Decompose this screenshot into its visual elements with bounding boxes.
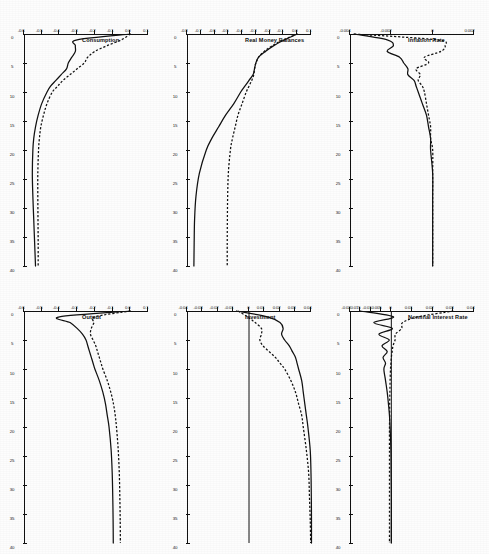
plot-area: 05101520253035400.040.030.020.010-0.005-… — [350, 311, 474, 543]
x-tick — [349, 150, 353, 151]
panel-consumption: Consumption 05101520253035400.10.0-0.1-0… — [0, 0, 163, 277]
x-tick — [186, 179, 190, 180]
x-tick-label: 10 — [335, 371, 339, 376]
x-tick — [349, 456, 353, 457]
x-tick — [349, 514, 353, 515]
x-tick-label: 40 — [335, 268, 339, 273]
x-tick-label: 25 — [335, 181, 339, 186]
series-canvas — [187, 311, 311, 543]
x-tick — [349, 179, 353, 180]
plot-area: 05101520253035400.10.0-0.1-0.2-0.3-0.4-0… — [24, 34, 148, 266]
x-tick — [186, 369, 190, 370]
x-tick-label: 10 — [172, 371, 176, 376]
x-tick-label: 5 — [173, 341, 175, 346]
x-tick-label: 5 — [173, 64, 175, 69]
x-tick-label: 40 — [335, 545, 339, 550]
x-tick-label: 10 — [172, 94, 176, 99]
series-solid-line — [56, 311, 130, 543]
x-tick — [349, 266, 353, 267]
series-canvas — [350, 311, 474, 543]
x-tick — [349, 427, 353, 428]
series-solid-line — [236, 311, 311, 543]
series-dashed-line — [37, 34, 130, 266]
x-tick — [186, 121, 190, 122]
x-tick-label: 40 — [172, 545, 176, 550]
x-tick-label: 0 — [10, 312, 12, 317]
x-tick-label: 30 — [9, 210, 13, 215]
y-tick-label: 0.002 — [452, 27, 474, 32]
x-tick — [23, 340, 27, 341]
x-tick-label: 40 — [9, 268, 13, 273]
y-tick-label: -0.6 — [2, 27, 24, 32]
y-tick-label: -0.04 — [165, 304, 187, 309]
panel-nominal-interest-rate: Nominal Interest Rate 05101520253035400.… — [326, 277, 489, 554]
x-tick — [349, 237, 353, 238]
y-tick-label: 0 — [411, 27, 433, 32]
x-tick-label: 15 — [172, 400, 176, 405]
x-tick-label: 25 — [9, 458, 13, 463]
x-tick-label: 35 — [335, 516, 339, 521]
series-canvas — [187, 34, 311, 266]
x-tick-label: 15 — [9, 123, 13, 128]
x-tick — [186, 237, 190, 238]
y-tick-label: -0.6 — [2, 304, 24, 309]
x-tick-label: 5 — [336, 341, 338, 346]
x-tick — [23, 427, 27, 428]
x-tick — [186, 208, 190, 209]
x-tick — [349, 340, 353, 341]
x-tick — [349, 485, 353, 486]
x-tick — [349, 543, 353, 544]
x-tick-label: 15 — [335, 400, 339, 405]
x-tick — [23, 92, 27, 93]
x-tick-label: 40 — [172, 268, 176, 273]
x-tick — [186, 340, 190, 341]
x-tick — [23, 150, 27, 151]
x-tick-label: 0 — [173, 312, 175, 317]
x-tick — [23, 514, 27, 515]
x-tick — [349, 63, 353, 64]
x-tick-label: 20 — [172, 152, 176, 157]
x-tick-label: 20 — [172, 429, 176, 434]
x-tick — [186, 514, 190, 515]
x-tick — [349, 369, 353, 370]
x-tick-label: 20 — [335, 152, 339, 157]
x-tick-label: 15 — [172, 123, 176, 128]
x-tick — [23, 456, 27, 457]
y-tick-label: 0.01 — [390, 304, 412, 309]
x-tick-label: 30 — [172, 210, 176, 215]
x-tick-label: 0 — [336, 312, 338, 317]
y-tick-label: 0.02 — [411, 304, 433, 309]
x-tick-label: 10 — [335, 94, 339, 99]
y-tick-label: 0.04 — [452, 304, 474, 309]
x-tick-label: 20 — [9, 429, 13, 434]
x-tick — [23, 369, 27, 370]
plot-area: 05101520253035400.040.030.020.010-0.01-0… — [187, 311, 311, 543]
figure-root: Consumption 05101520253035400.10.0-0.1-0… — [0, 0, 489, 554]
x-tick-label: 35 — [335, 239, 339, 244]
x-tick — [186, 266, 190, 267]
x-tick — [349, 92, 353, 93]
y-tick-label: -0.02 — [328, 304, 350, 309]
series-canvas — [24, 311, 148, 543]
x-tick — [186, 427, 190, 428]
x-tick-label: 25 — [172, 181, 176, 186]
x-tick — [23, 208, 27, 209]
x-tick-label: 5 — [10, 341, 12, 346]
y-tick-label: -0.004 — [328, 27, 350, 32]
y-tick-label: 0.03 — [431, 304, 453, 309]
series-canvas — [350, 34, 474, 266]
series-canvas — [24, 34, 148, 266]
x-tick-label: 0 — [336, 35, 338, 40]
x-tick — [186, 456, 190, 457]
x-tick-label: 5 — [10, 64, 12, 69]
x-tick-label: 0 — [10, 35, 12, 40]
x-tick — [186, 63, 190, 64]
x-tick-label: 30 — [9, 487, 13, 492]
x-tick-label: 35 — [172, 516, 176, 521]
y-tick-label: -0.002 — [369, 27, 391, 32]
x-tick-label: 15 — [9, 400, 13, 405]
x-tick-label: 30 — [335, 210, 339, 215]
x-tick — [23, 179, 27, 180]
x-tick-label: 25 — [335, 458, 339, 463]
x-tick-label: 20 — [9, 152, 13, 157]
